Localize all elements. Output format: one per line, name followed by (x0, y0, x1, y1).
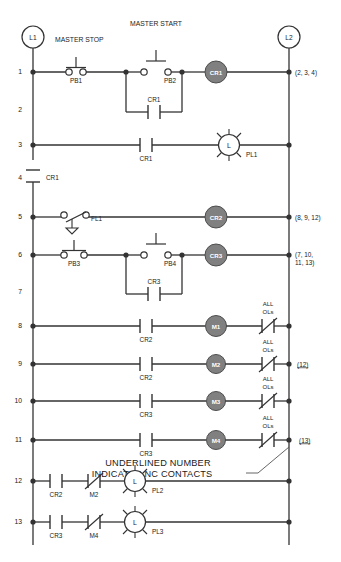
coil-m4[interactable]: M4 (207, 431, 226, 450)
overload-label-line1-rung10: ALL (263, 376, 274, 382)
lamp-inner-pl2: L (133, 478, 137, 485)
rung-number-6: 6 (18, 251, 22, 258)
xref-rung-5: (8, 9, 12) (295, 214, 321, 222)
overload-label-line1-rung11: ALL (263, 415, 274, 421)
contact-label-cr2-rung9: CR2 (140, 374, 153, 381)
contact-label-cr2-rung8: CR2 (140, 336, 153, 343)
ladder-svg: L1 L2 MASTER STOP MASTER START PB1 (0, 0, 341, 562)
contact-cr3-rung11[interactable]: CR3 (140, 433, 153, 457)
contact-cr3-rung10[interactable]: CR3 (140, 394, 153, 418)
rung-6: PB3 PB4 CR3 CR3 (30, 233, 314, 301)
coil-cr2[interactable]: CR2 (205, 206, 227, 228)
rung-number-13: 13 (14, 518, 22, 525)
contact-label-pb3: PB3 (68, 260, 81, 267)
contact-label-cr3-rung13: CR3 (50, 532, 63, 539)
lamp-inner-pl3: L (133, 519, 137, 526)
overload-label-line2-rung9: OLs (262, 347, 273, 353)
callout-note: UNDERLINED NUMBER INDICATES NC CONTACTS (92, 447, 289, 479)
contact-cr2-rung12[interactable]: CR2 (50, 474, 63, 498)
rung-number-7: 7 (18, 288, 22, 295)
coil-label-cr3: CR3 (210, 252, 223, 259)
overload-label-line2-rung11: OLs (262, 423, 273, 429)
rung-8: CR2 M1 ALL OLs (30, 301, 291, 343)
rung-3: CR1 L PL1 (30, 129, 291, 162)
rung-number-column: 1 2 3 4 5 6 7 8 9 10 11 12 13 (14, 68, 22, 525)
rung-number-1: 1 (18, 68, 22, 75)
rung-1: PB1 PB2 CR1 CR1 (30, 50, 317, 119)
coil-label-cr1: CR1 (210, 69, 223, 76)
contact-label-m4-rung13: M4 (90, 532, 99, 539)
overload-label-line1-rung9: ALL (263, 339, 274, 345)
contact-label-cr3-sealin: CR3 (148, 278, 161, 285)
contact-label-cr1-rung3: CR1 (140, 155, 153, 162)
contact-label-cr1-sealin: CR1 (148, 96, 161, 103)
overload-contact-rung9[interactable]: ALL OLs (259, 339, 277, 372)
rung-10: CR3 M3 ALL OLs (30, 376, 291, 418)
rung-11: CR3 M4 ALL OLs (13) (30, 415, 310, 457)
rail-terminal-l2: L2 (278, 26, 300, 72)
rail-label-l1: L1 (29, 34, 37, 41)
rung-number-9: 9 (18, 360, 22, 367)
contact-label-cr2-rung12: CR2 (50, 491, 63, 498)
contact-label-cr3-rung11: CR3 (140, 450, 153, 457)
xref-rung-6-line1: (7, 10, (295, 251, 313, 259)
rung-number-5: 5 (18, 213, 22, 220)
rung-number-3: 3 (18, 141, 22, 148)
contact-fl1-float-switch[interactable]: FL1 (61, 212, 103, 234)
overload-contact-rung11[interactable]: ALL OLs (259, 415, 277, 448)
lamp-label-pl3: PL3 (152, 528, 164, 535)
coil-m2[interactable]: M2 (207, 355, 226, 374)
rung-13: CR3 M4 L PL3 (30, 506, 291, 539)
coil-m1[interactable]: M1 (206, 316, 227, 337)
xref-rung-1: (2, 3, 4) (295, 69, 317, 77)
lamp-label-pl2: PL2 (152, 487, 164, 494)
overload-label-line2-rung8: OLs (262, 309, 273, 315)
callout-note-line1: UNDERLINED NUMBER (105, 458, 211, 468)
coil-cr3[interactable]: CR3 (205, 244, 227, 266)
contact-pb4[interactable]: PB4 (126, 233, 176, 267)
rung-number-10: 10 (14, 397, 22, 404)
overload-contact-rung10[interactable]: ALL OLs (259, 376, 277, 409)
coil-cr1[interactable]: CR1 (205, 61, 227, 83)
contact-pb3[interactable]: PB3 (61, 240, 87, 267)
coil-label-m3: M3 (212, 398, 221, 405)
overload-label-line2-rung10: OLs (262, 384, 273, 390)
rung-9: CR2 M2 ALL OLs (12) (30, 339, 308, 381)
contact-cr2-rung9[interactable]: CR2 (140, 357, 153, 381)
contact-cr3-rung13[interactable]: CR3 (50, 515, 63, 539)
rung-number-8: 8 (18, 322, 22, 329)
coil-label-m2: M2 (212, 361, 221, 368)
coil-label-m4: M4 (212, 437, 221, 444)
coil-m3[interactable]: M3 (207, 392, 226, 411)
overload-contact-rung8[interactable]: ALL OLs (259, 301, 277, 334)
rung-4[interactable]: CR1 (26, 170, 59, 200)
contact-label-cr3-rung10: CR3 (140, 411, 153, 418)
rail-label-l2: L2 (285, 34, 293, 41)
ladder-diagram: L1 L2 MASTER STOP MASTER START PB1 (0, 0, 341, 562)
rung-number-4: 4 (18, 174, 22, 181)
xref-rung-9: (12) (297, 361, 308, 369)
header-master-stop: MASTER STOP (55, 36, 104, 43)
xref-rung-11: (13) (299, 437, 310, 445)
contact-cr1-rung3[interactable]: CR1 (140, 138, 153, 162)
lamp-label-pl1: PL1 (246, 151, 258, 158)
contact-label-pb2: PB2 (164, 77, 177, 84)
contact-label-pb1: PB1 (70, 77, 83, 84)
lamp-inner-pl1: L (227, 142, 231, 149)
rung-number-2: 2 (18, 106, 22, 113)
contact-m4-rung13[interactable]: M4 (85, 514, 103, 539)
rung-5: FL1 CR2 (8, 9, 12) (30, 206, 320, 234)
contact-label-fl1: FL1 (91, 215, 102, 222)
contact-pb1[interactable]: PB1 (66, 57, 86, 84)
contact-label-pb4: PB4 (164, 260, 177, 267)
rung-number-11: 11 (15, 436, 22, 443)
contact-label-m2-rung12: M2 (90, 491, 99, 498)
rail-terminal-l1: L1 (22, 26, 44, 72)
overload-label-line1-rung8: ALL (263, 301, 274, 307)
coil-label-cr2: CR2 (210, 214, 223, 221)
contact-pb2[interactable]: PB2 (126, 50, 176, 84)
callout-note-line2: INDICATES NC CONTACTS (92, 469, 213, 479)
contact-label-cr1-rung4: CR1 (46, 174, 59, 181)
contact-cr2-rung8[interactable]: CR2 (140, 319, 153, 343)
coil-label-m1: M1 (212, 323, 221, 330)
